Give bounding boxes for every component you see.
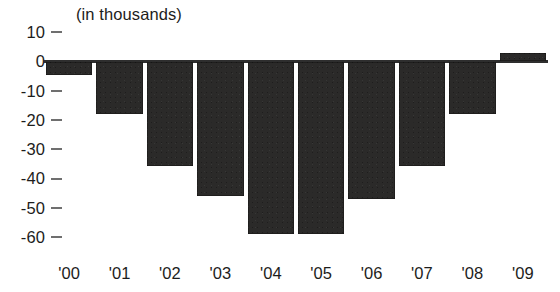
x-axis-tick-label: '03 bbox=[195, 262, 245, 284]
bar[interactable] bbox=[96, 62, 142, 115]
bar[interactable] bbox=[248, 62, 294, 235]
x-axis: '00'01'02'03'04'05'06'07'08'09 bbox=[44, 262, 548, 292]
bar-slot bbox=[498, 0, 548, 292]
bar-chart: (in thousands) 100-10-20-30-40-50-60 '00… bbox=[0, 0, 560, 292]
bar[interactable] bbox=[298, 62, 344, 235]
bar-slot bbox=[397, 0, 447, 292]
x-axis-tick-label: '04 bbox=[246, 262, 296, 284]
x-axis-tick-label: '05 bbox=[296, 262, 346, 284]
bar-slot bbox=[94, 0, 144, 292]
y-axis-tick-label: 10 bbox=[26, 23, 45, 40]
bar-slot bbox=[44, 0, 94, 292]
bar[interactable] bbox=[500, 53, 546, 62]
bar-slot bbox=[246, 0, 296, 292]
bar[interactable] bbox=[147, 62, 193, 166]
y-axis-tick-label: -30 bbox=[21, 141, 45, 158]
bar[interactable] bbox=[399, 62, 445, 166]
y-axis-tick-label: -20 bbox=[21, 111, 45, 128]
x-axis-tick-label: '06 bbox=[346, 262, 396, 284]
bar-slot bbox=[145, 0, 195, 292]
x-axis-tick-label: '02 bbox=[145, 262, 195, 284]
bar[interactable] bbox=[46, 62, 92, 75]
y-axis-tick-label: -40 bbox=[21, 170, 45, 187]
bar[interactable] bbox=[348, 62, 394, 200]
x-axis-tick-label: '08 bbox=[447, 262, 497, 284]
bar-slot bbox=[195, 0, 245, 292]
bar[interactable] bbox=[197, 62, 243, 197]
bar-slot bbox=[346, 0, 396, 292]
y-axis-tick-label: -60 bbox=[21, 229, 45, 246]
plot-area bbox=[44, 0, 548, 292]
bar-slot bbox=[296, 0, 346, 292]
x-axis-tick-label: '09 bbox=[498, 262, 548, 284]
bar[interactable] bbox=[449, 62, 495, 115]
x-axis-tick-label: '00 bbox=[44, 262, 94, 284]
y-axis-tick-label: -50 bbox=[21, 199, 45, 216]
x-axis-tick-label: '01 bbox=[94, 262, 144, 284]
y-axis-tick-label: -10 bbox=[21, 82, 45, 99]
x-axis-tick-label: '07 bbox=[397, 262, 447, 284]
bar-slot bbox=[447, 0, 497, 292]
